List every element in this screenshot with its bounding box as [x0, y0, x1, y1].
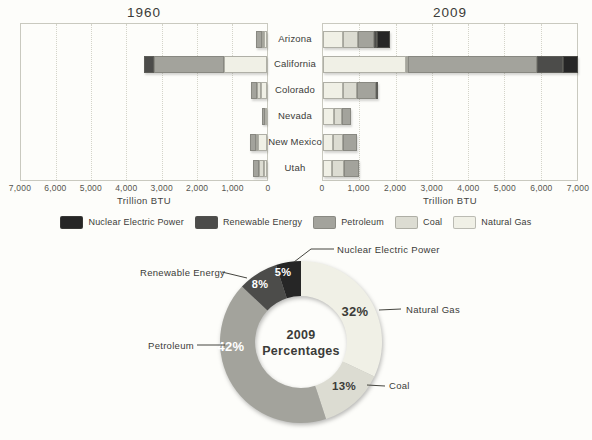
leader-line-coal [367, 385, 385, 386]
energy-consumption-figure: 1960 2009 ArizonaCaliforniaColoradoNevad… [0, 0, 592, 440]
slice-percent-nuclear-electric-power: 5% [275, 266, 292, 278]
slice-percent-natural-gas: 32% [342, 304, 369, 319]
donut-center-year: 2009 [251, 327, 351, 343]
donut-center-label: 2009 Percentages [251, 327, 351, 360]
slice-percent-renewable-energy: 8% [252, 278, 269, 290]
slice-label-nuclear-electric-power: Nuclear Electric Power [337, 244, 440, 255]
leader-line-natural-gas [379, 309, 401, 310]
slice-label-petroleum: Petroleum [146, 340, 194, 351]
leader-line-nuclear-electric-power [294, 249, 334, 262]
slice-label-natural-gas: Natural Gas [406, 304, 460, 315]
donut-chart: 32%13%42%8%5% [0, 0, 592, 440]
leader-line-renewable-energy [222, 272, 247, 278]
slice-label-coal: Coal [389, 380, 410, 391]
slice-percent-petroleum: 42% [218, 339, 245, 354]
slice-percent-coal: 13% [332, 380, 356, 392]
donut-center-word: Percentages [251, 343, 351, 359]
slice-label-renewable-energy: Renewable Energy [140, 267, 219, 278]
